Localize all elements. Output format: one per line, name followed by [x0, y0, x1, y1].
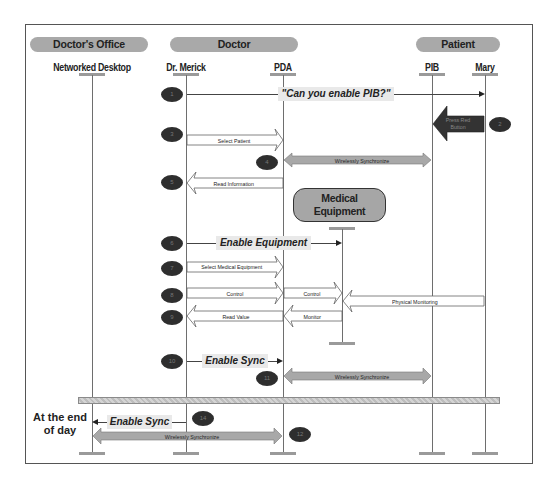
label-wireless-sync-11: Wirelessly Synchronize — [335, 373, 389, 380]
label-control-1: Control — [226, 290, 243, 297]
label-control-2: Control — [303, 290, 320, 297]
label-read-information: Read Information — [214, 180, 254, 187]
step-badge-4: 4 — [256, 155, 278, 170]
label-press-red-button: Press Red Button — [436, 116, 480, 130]
arrowhead-right-icon — [479, 91, 485, 97]
step-badge-11: 11 — [256, 371, 278, 386]
end-of-day-separator — [78, 397, 500, 404]
step-badge-12: 12 — [289, 427, 311, 442]
step-badge-7: 7 — [161, 261, 183, 276]
label-press-red-line1: Press Red — [436, 116, 480, 123]
step-badge-2: 2 — [489, 117, 511, 132]
label-select-patient: Select Patient — [218, 137, 250, 144]
side-note-line1: At the end — [32, 411, 88, 424]
label-read-value: Read Value — [222, 313, 249, 320]
step-badge-1: 1 — [161, 87, 183, 102]
step-badge-9: 9 — [161, 310, 183, 325]
step-badge-10: 10 — [161, 354, 183, 369]
label-press-red-line2: Button — [436, 123, 480, 130]
step-badge-6: 6 — [161, 236, 183, 251]
side-note-line2: of day — [32, 424, 88, 437]
label-physical-monitoring: Physical Monitoring — [392, 298, 438, 305]
label-wireless-sync-12: Wirelessly Synchronize — [165, 433, 219, 440]
step-badge-3: 3 — [161, 127, 183, 142]
label-wireless-sync-4: Wirelessly Synchronize — [335, 157, 389, 164]
label-enable-sync-14: Enable Sync — [107, 415, 172, 429]
step-badge-5: 5 — [161, 175, 183, 190]
arrowhead-right-icon — [336, 240, 342, 246]
label-enable-sync-10: Enable Sync — [202, 354, 268, 368]
label-can-you-enable-pib: "Can you enable PIB?" — [278, 87, 394, 101]
label-enable-equipment: Enable Equipment — [216, 236, 311, 250]
side-note-end-of-day: At the end of day — [32, 411, 88, 437]
arrowhead-left-icon — [92, 419, 98, 425]
step-badge-8: 8 — [161, 288, 183, 303]
arrowhead-right-icon — [277, 358, 283, 364]
label-select-medical-equipment: Select Medical Equipment — [201, 263, 262, 270]
step-badge-14: 14 — [192, 411, 214, 426]
label-monitor: Monitor — [304, 313, 322, 320]
